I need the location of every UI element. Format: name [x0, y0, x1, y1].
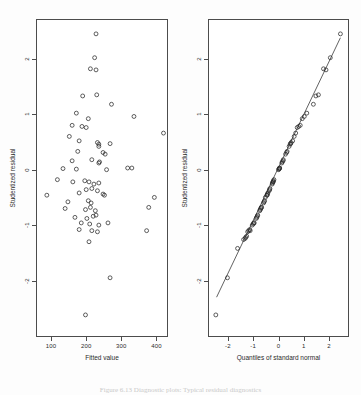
x-tick-mark — [228, 337, 229, 341]
x-tick-label: 1 — [302, 343, 306, 349]
x-tick-label: 300 — [116, 343, 127, 349]
y-axis-label-left: Studentized residual — [9, 149, 16, 208]
x-tick-mark — [86, 337, 87, 341]
y-tick-label: 1 — [196, 109, 202, 119]
x-tick-mark — [304, 337, 305, 341]
panel-normal-qq: -2-1012 210-1-2 Quantiles of standard no… — [181, 0, 361, 378]
figure-caption: Figure 6.13 Diagnostic plots: Typical re… — [0, 386, 361, 394]
y-tick-label: 2 — [196, 54, 202, 64]
x-tick-mark — [51, 337, 52, 341]
x-tick-label: 400 — [151, 343, 162, 349]
y-tick-label: -1 — [196, 220, 202, 230]
y-tick-mark — [32, 114, 36, 115]
figure-container: 100200300400 210-1-2 Fitted value Studen… — [0, 0, 361, 395]
panel-residuals-vs-fitted: 100200300400 210-1-2 Fitted value Studen… — [0, 0, 180, 378]
y-tick-mark — [204, 114, 208, 115]
y-tick-label: 1 — [24, 109, 30, 119]
y-axis-label-right: Studentized residual — [181, 149, 188, 208]
x-tick-mark — [121, 337, 122, 341]
y-tick-label: 0 — [196, 165, 202, 175]
plot-area-left — [37, 20, 167, 336]
y-tick-mark — [204, 170, 208, 171]
y-tick-label: 2 — [24, 54, 30, 64]
y-tick-label: -1 — [24, 220, 30, 230]
x-tick-label: 2 — [327, 343, 331, 349]
plot-area-right — [209, 20, 348, 336]
x-tick-mark — [253, 337, 254, 341]
y-tick-mark — [32, 225, 36, 226]
scatter-points-left — [37, 20, 167, 336]
x-tick-label: 200 — [81, 343, 92, 349]
y-tick-label: -2 — [24, 276, 30, 286]
x-axis-label-right: Quantiles of standard normal — [237, 354, 320, 361]
x-tick-label: 100 — [46, 343, 57, 349]
y-tick-mark — [32, 59, 36, 60]
x-axis-label-left: Fitted value — [85, 354, 119, 361]
x-tick-label: -2 — [225, 343, 231, 349]
y-tick-mark — [204, 281, 208, 282]
y-tick-label: -2 — [196, 276, 202, 286]
y-tick-mark — [204, 225, 208, 226]
x-tick-mark — [329, 337, 330, 341]
plot-frame-left — [36, 19, 168, 337]
plot-frame-right — [208, 19, 349, 337]
x-tick-label: -1 — [250, 343, 256, 349]
x-tick-mark — [279, 337, 280, 341]
y-tick-mark — [32, 281, 36, 282]
x-tick-label: 0 — [277, 343, 281, 349]
scatter-points-right — [209, 20, 348, 336]
y-tick-mark — [204, 59, 208, 60]
y-tick-mark — [32, 170, 36, 171]
x-tick-mark — [156, 337, 157, 341]
y-tick-label: 0 — [24, 165, 30, 175]
